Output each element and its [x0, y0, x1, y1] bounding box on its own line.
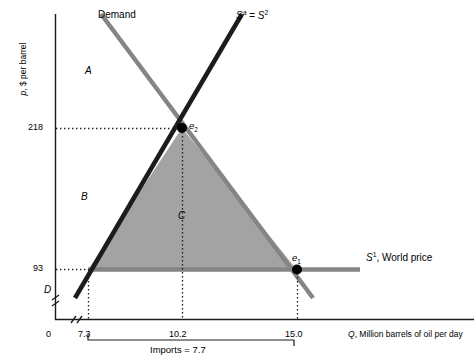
region-label-a: A: [85, 66, 92, 76]
x-tick-label-10-2: 10.2: [169, 330, 187, 339]
world-price-label-rest: , World price: [376, 252, 432, 263]
world-price-label-s: S: [366, 252, 373, 263]
e2-subscript: 2: [194, 126, 198, 133]
equilibrium-label-e2: e2: [189, 121, 198, 133]
y-tick-label-218: 218: [28, 123, 43, 132]
imports-label: Imports = 7.7: [150, 345, 206, 355]
chart-svg: [0, 0, 474, 364]
equilibrium-point-e1: [292, 265, 302, 275]
demand-curve-label: Demand: [98, 10, 136, 20]
region-label-d: D: [44, 285, 51, 295]
x-tick-label-7-3: 7.3: [78, 330, 91, 339]
page-top-cutoff-text: [38, 0, 238, 5]
equilibrium-label-e1: e1: [292, 253, 301, 265]
region-label-c: C: [178, 211, 185, 221]
supply-curve-label: Sa = S2: [236, 10, 268, 21]
world-price-label: S1, World price: [366, 252, 432, 263]
x-tick-label-15-0: 15.0: [285, 330, 303, 339]
supply-label-s-a: S: [236, 10, 243, 21]
region-label-b: B: [81, 192, 88, 202]
y-axis-title-symbol: p: [18, 91, 28, 96]
shaded-region-c: [88, 128, 297, 270]
y-tick-label-93: 93: [33, 264, 43, 273]
supply-demand-figure: p, $ per barrel Q, Million barrels of oi…: [0, 0, 474, 364]
e1-subscript: 1: [297, 258, 301, 265]
x-tick-label-origin: 0: [46, 330, 51, 339]
x-axis-title: Q, Million barrels of oil per day: [348, 330, 463, 339]
y-axis-title: p, $ per barrel: [12, 24, 30, 114]
y-axis-title-rest: , $ per barrel: [18, 43, 28, 91]
supply-label-equals: =: [246, 10, 257, 21]
supply-label-s-2: S: [258, 10, 265, 21]
x-axis-title-rest: , Million barrels of oil per day: [355, 329, 463, 339]
equilibrium-point-e2: [177, 123, 187, 133]
x-axis-title-symbol: Q: [348, 329, 355, 339]
supply-label-sup-2: 2: [265, 9, 269, 16]
